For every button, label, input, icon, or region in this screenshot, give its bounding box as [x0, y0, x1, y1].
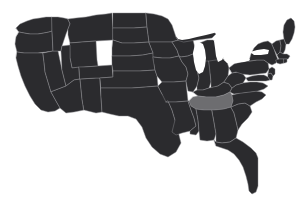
state-RI[interactable] — [284, 59, 287, 63]
state-ND[interactable] — [113, 13, 147, 28]
state-CO[interactable] — [79, 65, 113, 79]
state-WY[interactable] — [70, 41, 98, 68]
state-OR[interactable] — [15, 31, 53, 53]
state-SD[interactable] — [113, 27, 149, 43]
us-map-svg[interactable] — [0, 0, 307, 213]
state-CT[interactable] — [276, 59, 284, 64]
us-map-container — [0, 0, 307, 213]
